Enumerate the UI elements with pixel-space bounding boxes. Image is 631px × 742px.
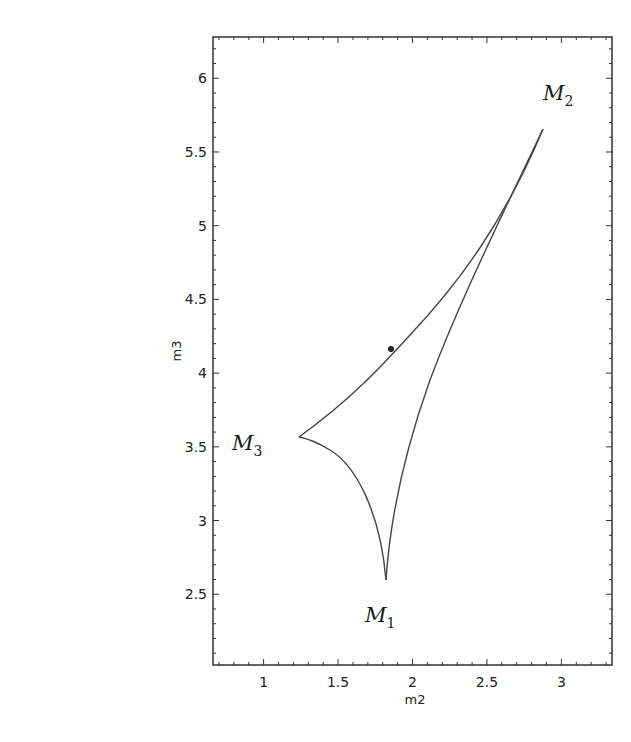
y-tick-label: 3.5	[185, 439, 207, 455]
marked-point	[388, 346, 394, 352]
edge-m3-m2	[299, 129, 543, 437]
y-tick-label: 5.5	[185, 144, 207, 160]
label-m2: M2	[542, 81, 573, 109]
edge-m2-m1	[386, 129, 543, 580]
y-tick-label: 4.5	[185, 291, 207, 307]
label-m3: M3	[231, 431, 262, 459]
y-tick-labels: 2.533.544.555.56	[185, 70, 207, 602]
y-tick-label: 6	[198, 70, 207, 86]
x-tick-labels: 11.522.53	[259, 674, 566, 690]
label-m1: M1	[364, 603, 395, 631]
x-tick-label: 3	[557, 674, 566, 690]
x-tick-label: 1.5	[327, 674, 349, 690]
chart: M2 M3 M1 11.522.53 2.533.544.555.56 m2 m…	[0, 0, 631, 742]
y-axis-label: m3	[169, 341, 184, 362]
y-tick-label: 5	[198, 218, 207, 234]
x-tick-label: 1	[259, 674, 268, 690]
x-axis-label: m2	[405, 692, 426, 707]
y-tick-label: 2.5	[185, 586, 207, 602]
axis-ticks	[213, 37, 612, 665]
y-tick-label: 4	[198, 365, 207, 381]
plot-frame	[213, 37, 612, 665]
y-tick-label: 3	[198, 513, 207, 529]
x-tick-label: 2.5	[476, 674, 498, 690]
deltoid-curve	[299, 129, 543, 580]
x-tick-label: 2	[408, 674, 417, 690]
edge-m1-m3	[299, 437, 386, 580]
